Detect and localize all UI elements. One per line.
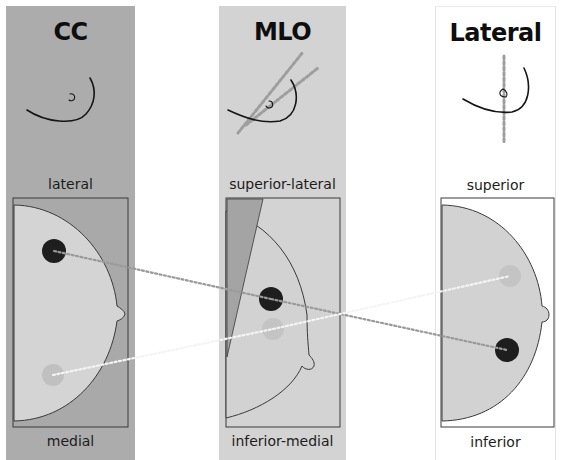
lateral-orientation-icon [463,56,528,143]
mlo-orientation-icon [228,52,318,133]
cc-breast-outline-icon [27,78,94,121]
lateral-breast-view [441,198,554,427]
mammography-projections-diagram: CC lateral medial MLO superior-lateral i… [0,0,566,460]
cc-orientation-icon [27,78,94,121]
cc-breast-view [13,198,128,427]
cc-nipple-icon [69,94,75,101]
lateral-lesion-faint [499,265,521,287]
diagram-graphics [0,0,566,460]
lateral-breast-outline-icon [463,68,528,112]
mlo-breast-view [226,198,340,427]
mlo-dotted-guide-1 [238,52,303,133]
